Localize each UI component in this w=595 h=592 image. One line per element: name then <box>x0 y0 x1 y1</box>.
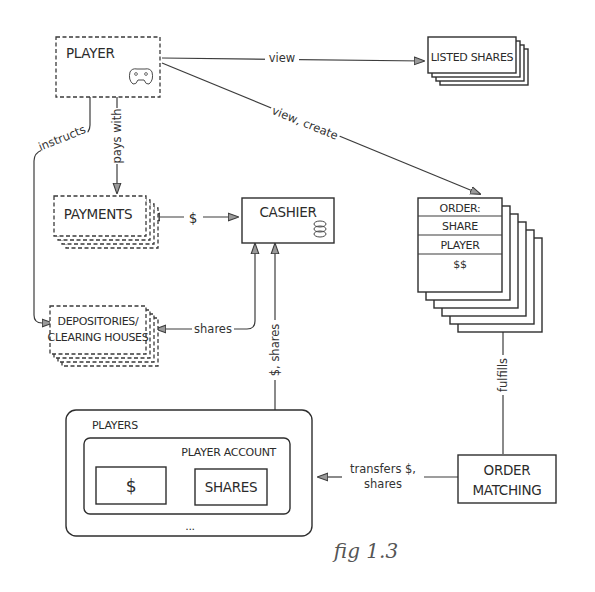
node-depositories-label-2: CLEARING HOUSES <box>48 331 149 344</box>
edge-label-pays-with: pays with <box>110 108 124 163</box>
edge-label-transfers-1: transfers $, <box>350 462 416 476</box>
edge-label-cash: $ <box>189 210 197 226</box>
edge-cash: $ <box>150 210 238 226</box>
edge-view-create: view, create <box>162 63 480 194</box>
edge-pays-with: pays with <box>109 97 125 193</box>
node-payments[interactable]: PAYMENTS <box>54 196 158 248</box>
account-cash-label: $ <box>126 476 137 496</box>
edge-cash-shares: $, shares <box>267 244 283 434</box>
node-players-label: PLAYERS <box>92 419 138 432</box>
node-order[interactable]: ORDER: SHARE PLAYER $$ <box>418 198 542 332</box>
players-more: ... <box>185 520 195 533</box>
node-players[interactable]: PLAYERS PLAYER ACCOUNT $ SHARES ... <box>66 410 312 536</box>
node-order-matching-label-2: MATCHING <box>472 482 541 498</box>
node-cashier-label: CASHIER <box>259 204 316 220</box>
order-row-title: ORDER: <box>440 202 481 215</box>
node-player-account[interactable]: PLAYER ACCOUNT $ SHARES <box>84 438 290 514</box>
account-shares-label: SHARES <box>205 479 258 495</box>
edge-label-fulfills: fulfills <box>496 358 510 392</box>
figure-caption: fig 1.3 <box>332 539 398 563</box>
node-player-label: PLAYER <box>66 45 115 61</box>
order-row-share: SHARE <box>442 220 478 233</box>
architecture-diagram: view view, create pays with instructs $ … <box>0 0 595 592</box>
edge-view: view <box>162 50 424 66</box>
node-listed-shares-label: LISTED SHARES <box>431 51 514 64</box>
node-cashier[interactable]: CASHIER <box>242 198 334 243</box>
edge-label-transfers-2: shares <box>364 477 402 491</box>
edge-label-view: view <box>269 51 295 65</box>
node-order-matching-label-1: ORDER <box>484 462 531 478</box>
edge-label-cash-shares: $, shares <box>268 324 282 377</box>
node-listed-shares[interactable]: LISTED SHARES <box>428 37 528 85</box>
edge-label-shares: shares <box>194 322 232 336</box>
player-account-label: PLAYER ACCOUNT <box>181 446 276 459</box>
edge-shares: shares <box>156 244 255 337</box>
node-depositories-label-1: DEPOSITORIES/ <box>58 315 140 328</box>
order-row-player: PLAYER <box>440 239 480 252</box>
node-order-matching[interactable]: ORDER MATCHING <box>458 455 556 503</box>
edge-label-instructs: instructs <box>36 122 87 154</box>
order-row-amount: $$ <box>453 258 467 271</box>
node-payments-label: PAYMENTS <box>64 206 132 222</box>
node-depositories[interactable]: DEPOSITORIES/ CLEARING HOUSES <box>48 306 158 366</box>
node-player[interactable]: PLAYER <box>56 37 160 97</box>
edge-transfers: transfers $, shares <box>318 462 458 491</box>
